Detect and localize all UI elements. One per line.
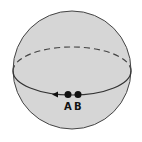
point-b [75,91,82,98]
sphere-diagram: A B [0,0,142,142]
sphere [13,11,131,129]
point-a [65,91,72,98]
point-a-label: A [64,101,72,112]
point-b-label: B [74,101,82,112]
